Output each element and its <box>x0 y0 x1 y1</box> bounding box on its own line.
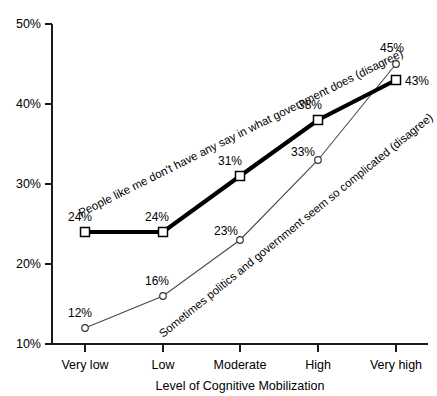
thin-marker-high <box>315 157 322 164</box>
bold-series-inline-label: People like me don't have any say in wha… <box>77 47 405 219</box>
thin-data-label-low: 16% <box>145 274 169 288</box>
y-axis-label-30: 30% <box>16 177 41 191</box>
y-axis-label-50: 50% <box>16 17 41 31</box>
thin-marker-low <box>160 293 167 300</box>
x-axis-label-low: Low <box>152 358 176 372</box>
y-axis-label-20: 20% <box>16 257 41 271</box>
y-axis-tick-labels: 50% 40% 30% 20% 10% <box>16 17 41 351</box>
bold-marker-very-high <box>392 76 401 85</box>
bold-marker-low <box>159 228 168 237</box>
y-axis-label-40: 40% <box>16 97 41 111</box>
bold-marker-moderate <box>236 172 245 181</box>
x-axis-label-moderate: Moderate <box>214 358 267 372</box>
x-axis-label-very-high: Very high <box>370 358 422 372</box>
thin-data-label-high: 33% <box>291 145 315 159</box>
x-axis-tick-labels: Very low Low Moderate High Very high <box>61 358 422 372</box>
x-axis-label-very-low: Very low <box>61 358 109 372</box>
bold-marker-very-low <box>81 228 90 237</box>
bold-data-label-low: 24% <box>145 210 169 224</box>
x-axis-label-high: High <box>305 358 331 372</box>
thin-data-label-moderate: 23% <box>214 224 238 238</box>
y-axis-label-10: 10% <box>16 337 41 351</box>
bold-data-label-very-high: 43% <box>405 74 429 88</box>
bold-series-data-labels: 24% 24% 31% 38% 43% <box>68 74 429 224</box>
bold-data-label-moderate: 31% <box>218 154 242 168</box>
chart-figure: 50% 40% 30% 20% 10% Very low Low Moderat… <box>0 0 437 396</box>
x-axis-title: Level of Cognitive Mobilization <box>156 379 325 393</box>
thin-marker-very-low <box>82 325 89 332</box>
thin-data-label-very-low: 12% <box>68 306 92 320</box>
chart-canvas: 50% 40% 30% 20% 10% Very low Low Moderat… <box>0 0 437 396</box>
bold-marker-high <box>314 116 323 125</box>
